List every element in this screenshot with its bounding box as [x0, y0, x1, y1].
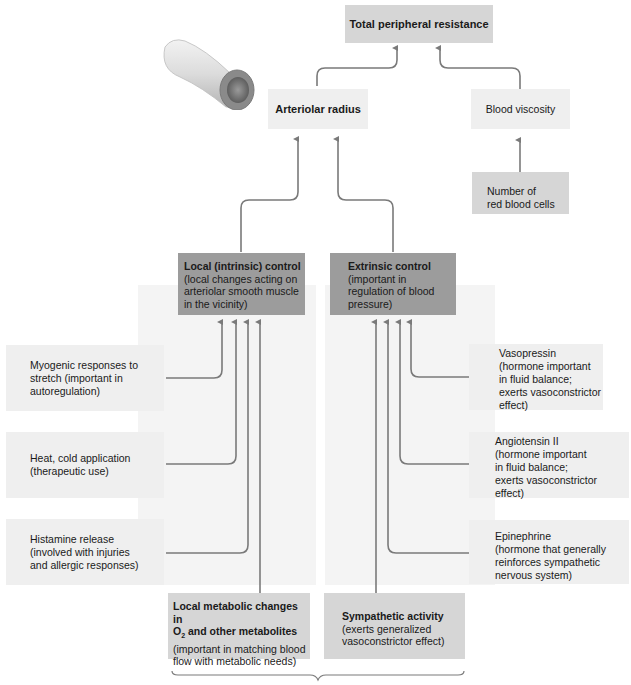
- extrinsic-control-title: Extrinsic control: [348, 260, 456, 273]
- heat-cold-line-2: (therapeutic use): [30, 465, 164, 478]
- blood-viscosity-box: Blood viscosity: [471, 89, 570, 129]
- angiotensin-line-3: in fluid balance;: [495, 461, 629, 474]
- vasopressin-line-2: (hormone important: [499, 360, 603, 373]
- heat-cold-box: Heat, cold application (therapeutic use): [6, 432, 164, 498]
- vasopressin-line-4: exerts vasoconstrictor: [499, 386, 603, 399]
- angiotensin-line-5: effect): [495, 487, 629, 500]
- myogenic-responses-box: Myogenic responses to stretch (important…: [6, 345, 164, 411]
- local-metabolic-changes-box: Local metabolic changes in O2 and other …: [168, 593, 310, 659]
- histamine-line-2: (involved with injuries: [30, 546, 164, 559]
- epinephrine-line-3: reinforces sympathetic: [495, 556, 629, 569]
- extrinsic-control-desc-1: (important in: [348, 273, 456, 286]
- myogenic-line-1: Myogenic responses to: [30, 359, 164, 372]
- local-control-title: Local (intrinsic) control: [184, 260, 305, 273]
- vasopressin-box: Vasopressin (hormone important in fluid …: [469, 344, 603, 410]
- angiotensin-line-4: exerts vasoconstrictor: [495, 474, 629, 487]
- angiotensin-line-1: Angiotensin II: [495, 435, 629, 448]
- extrinsic-control-desc-3: pressure): [348, 298, 456, 311]
- angiotensin-box: Angiotensin II (hormone important in flu…: [469, 432, 629, 498]
- arteriole-illustration-icon: [150, 35, 260, 110]
- local-control-desc-3: in the vicinity): [184, 298, 305, 311]
- epinephrine-box: Epinephrine (hormone that generally rein…: [469, 520, 629, 584]
- myogenic-line-2: stretch (important in: [30, 372, 164, 385]
- metabolic-title-2-text: and other metabolites: [185, 625, 297, 637]
- histamine-line-3: and allergic responses): [30, 559, 164, 572]
- angiotensin-line-2: (hormone important: [495, 448, 629, 461]
- rbc-line-1: Number of: [487, 185, 569, 198]
- metabolic-desc-1: (important in matching blood: [173, 643, 310, 656]
- extrinsic-control-desc-2: regulation of blood: [348, 285, 456, 298]
- arteriolar-radius-label: Arteriolar radius: [275, 103, 361, 116]
- red-blood-cells-box: Number of red blood cells: [472, 172, 569, 214]
- oxygen-symbol: O: [173, 625, 181, 637]
- metabolic-desc-2: flow with metabolic needs): [173, 655, 310, 668]
- heat-cold-line-1: Heat, cold application: [30, 452, 164, 465]
- epinephrine-line-2: (hormone that generally: [495, 543, 629, 556]
- local-control-desc-2: arteriolar smooth muscle: [184, 285, 305, 298]
- local-control-box: Local (intrinsic) control (local changes…: [178, 253, 305, 315]
- vasopressin-line-3: in fluid balance;: [499, 373, 603, 386]
- total-peripheral-resistance-box: Total peripheral resistance: [345, 5, 493, 43]
- metabolic-title-2: O2 and other metabolites: [173, 625, 310, 643]
- sympathetic-activity-box: Sympathetic activity (exerts generalized…: [324, 593, 465, 659]
- histamine-line-1: Histamine release: [30, 533, 164, 546]
- sympathetic-desc-2: vasoconstrictor effect): [342, 635, 465, 648]
- blood-viscosity-label: Blood viscosity: [486, 103, 555, 116]
- metabolic-title-1: Local metabolic changes in: [173, 600, 310, 625]
- vasopressin-line-5: effect): [499, 399, 603, 412]
- sympathetic-desc-1: (exerts generalized: [342, 623, 465, 636]
- total-peripheral-resistance-label: Total peripheral resistance: [349, 18, 488, 31]
- extrinsic-control-box: Extrinsic control (important in regulati…: [330, 253, 456, 315]
- local-control-desc-1: (local changes acting on: [184, 273, 305, 286]
- rbc-line-2: red blood cells: [487, 198, 569, 211]
- vasopressin-line-1: Vasopressin: [499, 347, 603, 360]
- sympathetic-title: Sympathetic activity: [342, 610, 465, 623]
- myogenic-line-3: autoregulation): [30, 385, 164, 398]
- epinephrine-line-1: Epinephrine: [495, 530, 629, 543]
- arteriolar-radius-box: Arteriolar radius: [268, 89, 368, 129]
- epinephrine-line-4: nervous system): [495, 569, 629, 582]
- histamine-release-box: Histamine release (involved with injurie…: [6, 519, 164, 585]
